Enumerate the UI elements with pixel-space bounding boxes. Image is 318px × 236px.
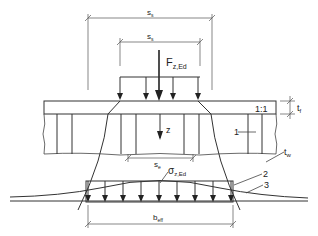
z-label: z	[166, 125, 171, 135]
load-dispersion-diagram: ss ss Fz,Ed 1:1 tf	[0, 0, 318, 236]
top-flange: 1:1	[44, 101, 276, 114]
svg-text:ss: ss	[147, 32, 154, 42]
callout-3-label: 3	[264, 180, 269, 190]
dimension-tf: tf	[280, 96, 302, 119]
svg-text:Fz,Ed: Fz,Ed	[166, 56, 187, 70]
svg-text:beff: beff	[153, 213, 164, 223]
z-axis: z	[157, 114, 171, 140]
svg-text:tw: tw	[284, 147, 292, 158]
svg-text:ss: ss	[147, 8, 154, 18]
svg-text:se: se	[154, 160, 161, 170]
callout-3: 3	[246, 180, 269, 193]
dimension-beff: beff	[85, 205, 236, 228]
dimension-se: se	[125, 154, 196, 170]
callout-tw: tw	[266, 147, 292, 162]
callout-1-label: 1	[234, 127, 239, 137]
dimension-ss-outer: ss	[85, 8, 215, 90]
slope-label: 1:1	[255, 104, 268, 114]
callout-1: 1	[234, 127, 256, 137]
dimension-ss-inner: ss	[117, 32, 203, 66]
svg-text:σz,Ed: σz,Ed	[168, 165, 186, 177]
callout-2-label: 2	[263, 169, 268, 179]
svg-text:tf: tf	[297, 103, 302, 114]
callout-2: 2	[234, 169, 268, 185]
